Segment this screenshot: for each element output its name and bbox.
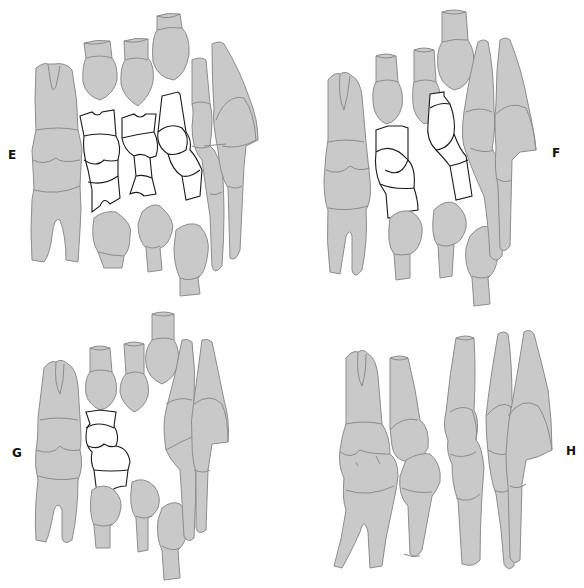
- premolar-tooth-upper: [390, 356, 428, 462]
- molar-tooth: [334, 350, 398, 568]
- erupting-tooth-1: [86, 410, 130, 492]
- molar-tooth: [31, 64, 82, 263]
- erupting-tooth-1: [376, 126, 419, 218]
- upper-tooth-2: [121, 38, 154, 106]
- lower-tooth-1: [389, 211, 423, 280]
- panel-g: G: [0, 300, 290, 588]
- upper-tooth-1: [86, 346, 117, 410]
- upper-tooth-1: [83, 40, 117, 100]
- upper-tooth-3: [153, 13, 190, 80]
- upper-tooth-3: [146, 312, 179, 384]
- panel-h: H: [290, 300, 584, 588]
- lower-tooth-1: [93, 212, 131, 268]
- erupting-tooth-2: [122, 114, 158, 196]
- lower-tooth-2: [131, 480, 160, 552]
- erupting-tooth-1: [80, 110, 120, 212]
- lower-tooth-2: [138, 205, 173, 272]
- central-incisor-tooth: [506, 330, 552, 562]
- upper-tooth-1: [373, 54, 403, 124]
- lower-tooth-1: [90, 486, 121, 548]
- panel-h-teeth-illustration: [290, 300, 584, 588]
- canine-tooth: [444, 336, 484, 565]
- premolar-tooth-lower: [400, 454, 441, 557]
- upper-tooth-2: [120, 342, 149, 412]
- molar-tooth: [324, 72, 371, 275]
- incisor-tooth: [191, 339, 228, 532]
- lower-tooth-3: [174, 224, 208, 296]
- panel-g-teeth-illustration: [0, 300, 290, 588]
- panel-e: E: [0, 0, 290, 300]
- panel-f: F: [290, 0, 584, 310]
- lower-tooth-2: [433, 202, 467, 278]
- panel-f-teeth-illustration: [290, 0, 584, 310]
- molar-tooth: [35, 360, 81, 542]
- figure-caption-clipped: [22, 579, 582, 588]
- upper-tooth-3: [438, 10, 474, 90]
- panel-e-teeth-illustration: [0, 0, 290, 300]
- incisor-tooth: [495, 38, 536, 251]
